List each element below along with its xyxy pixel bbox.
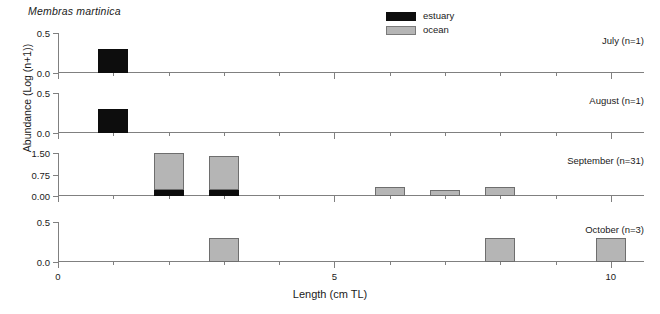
x-major-tick-august-0 [58,133,59,139]
y-tick-label-august-0: 0.0 [2,129,50,138]
x-minor-tick-august-3 [224,133,225,136]
x-minor-tick-october-8 [500,262,501,265]
x-minor-tick-july-2 [169,73,170,76]
bar-segment-estuary-july-x1 [98,49,128,73]
bar-segment-ocean-october-x10 [596,238,626,262]
y-tick-label-september-1: 0.75 [2,170,50,179]
x-minor-tick-august-7 [445,133,446,136]
x-tick-label-5: 5 [332,271,337,282]
x-major-tick-august-10 [611,133,612,139]
panel-label-october: October (n=3) [585,224,644,235]
x-major-tick-october-10 [611,262,612,268]
y-tick-label-october-1: 0.5 [2,218,50,227]
x-minor-tick-october-3 [224,262,225,265]
bar-segment-ocean-september-x7 [430,190,460,196]
x-minor-tick-october-4 [279,262,280,265]
estuary-swatch-icon [386,12,416,21]
x-minor-tick-october-1 [113,262,114,265]
y-tick-july-1 [53,33,58,34]
y-axis-spine-july [58,33,59,73]
legend-label-estuary: estuary [423,11,454,21]
x-minor-tick-august-6 [390,133,391,136]
bar-august-x1 [98,109,128,133]
x-minor-tick-october-7 [445,262,446,265]
y-tick-label-july-1: 0.5 [2,29,50,38]
bar-september-x3 [209,156,239,196]
y-tick-september-2 [53,153,58,154]
legend-item-estuary: estuary [386,10,454,22]
x-axis-title: Length (cm TL) [0,288,660,300]
x-minor-tick-september-6 [390,196,391,199]
y-tick-august-1 [53,93,58,94]
bar-segment-ocean-october-x8 [485,238,515,262]
x-minor-tick-july-8 [500,73,501,76]
x-minor-tick-july-1 [113,73,114,76]
x-major-tick-september-5 [334,196,335,202]
bar-segment-estuary-august-x1 [98,109,128,133]
x-minor-tick-october-9 [556,262,557,265]
y-axis-spine-october [58,222,59,262]
figure-root: Membras martinica estuary ocean Abundanc… [0,0,660,314]
x-minor-tick-july-6 [390,73,391,76]
x-minor-tick-september-9 [556,196,557,199]
panel-september: 0.000.751.50September (n=31) [0,153,660,196]
panel-august: 0.00.5August (n=1) [0,93,660,133]
bar-october-x10 [596,238,626,262]
x-minor-tick-september-8 [500,196,501,199]
plot-area-july: 0.00.5 [58,33,644,73]
x-minor-tick-september-2 [169,196,170,199]
y-tick-label-october-0: 0.0 [2,258,50,267]
x-minor-tick-september-4 [279,196,280,199]
bar-segment-ocean-september-x2 [154,153,184,190]
x-major-tick-september-10 [611,196,612,202]
x-minor-tick-october-2 [169,262,170,265]
y-tick-label-september-0: 0.00 [2,192,50,201]
y-tick-october-1 [53,222,58,223]
x-tick-label-10: 10 [606,271,617,282]
x-minor-tick-september-3 [224,196,225,199]
x-minor-tick-july-7 [445,73,446,76]
x-minor-tick-august-8 [500,133,501,136]
x-major-tick-october-0 [58,262,59,268]
bar-september-x6 [375,187,405,196]
y-tick-september-1 [53,175,58,176]
x-minor-tick-september-1 [113,196,114,199]
x-minor-tick-july-4 [279,73,280,76]
plot-area-august: 0.00.5 [58,93,644,133]
panel-october: 0.00.5October (n=3) [0,222,660,262]
x-minor-tick-august-2 [169,133,170,136]
bar-july-x1 [98,49,128,73]
species-title: Membras martinica [28,5,121,17]
panel-label-august: August (n=1) [589,95,644,106]
x-minor-tick-september-7 [445,196,446,199]
bar-october-x8 [485,238,515,262]
x-axis-tick-labels: 0510 [58,271,644,285]
x-tick-label-0: 0 [55,271,60,282]
x-minor-tick-july-3 [224,73,225,76]
bar-october-x3 [209,238,239,262]
bar-segment-ocean-september-x8 [485,187,515,196]
x-minor-tick-october-6 [390,262,391,265]
x-minor-tick-july-9 [556,73,557,76]
x-major-tick-october-5 [334,262,335,268]
bar-september-x7 [430,190,460,196]
panel-label-july: July (n=1) [602,35,644,46]
plot-area-october: 0.00.5 [58,222,644,262]
bar-september-x8 [485,187,515,196]
bar-segment-estuary-september-x3 [209,190,239,196]
panel-label-september: September (n=31) [567,155,644,166]
x-major-tick-september-0 [58,196,59,202]
bar-segment-ocean-september-x3 [209,156,239,190]
x-major-tick-july-5 [334,73,335,79]
bar-segment-ocean-october-x3 [209,238,239,262]
y-tick-label-august-1: 0.5 [2,89,50,98]
y-axis-spine-september [58,153,59,196]
bar-segment-ocean-september-x6 [375,187,405,196]
bar-september-x2 [154,153,184,196]
x-major-tick-august-5 [334,133,335,139]
x-major-tick-july-0 [58,73,59,79]
x-minor-tick-august-9 [556,133,557,136]
y-tick-label-july-0: 0.0 [2,69,50,78]
panel-july: 0.00.5July (n=1) [0,33,660,73]
y-tick-label-september-2: 1.50 [2,149,50,158]
